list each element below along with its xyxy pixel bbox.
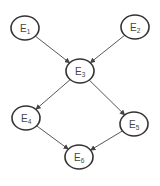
arrow-line [35, 36, 69, 63]
node-e1: E1 [11, 16, 39, 40]
edge-e4-to-e6 [37, 126, 69, 149]
node-e6: E6 [65, 145, 93, 169]
arrow-line [37, 126, 69, 149]
event-dependency-diagram: E1E2E3E4E5E6 [0, 0, 160, 186]
node-e3: E3 [66, 59, 94, 83]
arrow-line [91, 131, 123, 150]
edge-e2-to-e3 [90, 35, 125, 63]
edge-e1-to-e3 [35, 36, 69, 63]
node-e4: E4 [12, 106, 40, 130]
edge-e3-to-e4 [36, 80, 70, 110]
node-e2: E2 [121, 15, 149, 39]
edge-e5-to-e6 [91, 131, 123, 150]
node-e5: E5 [120, 112, 148, 136]
arrow-line [89, 80, 125, 115]
arrow-line [36, 80, 70, 110]
edge-e3-to-e5 [89, 80, 125, 115]
arrow-line [90, 35, 125, 63]
